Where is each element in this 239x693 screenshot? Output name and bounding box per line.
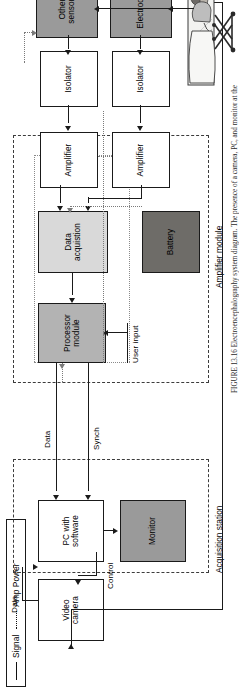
conn-iso1-amp1-arrow (65, 126, 71, 131)
conn-control-h (96, 552, 97, 576)
label-data-camera-pc: Data (10, 596, 19, 613)
conn-patient-electrodes-v (172, 8, 194, 9)
block-other-sensors[interactable]: Other sensors (36, 0, 98, 38)
block-pc-with-software[interactable]: PC with software (38, 500, 104, 562)
conn-sensors-iso1-line (68, 35, 69, 49)
block-amplifier-2[interactable]: Amplifier (112, 132, 170, 188)
system-block-diagram: Signal Amp Power Acquisition station Amp… (0, 0, 239, 693)
block-electrodes[interactable]: Electrodes (110, 0, 172, 38)
label-control-pc-camera: Control (106, 563, 115, 590)
block-data-acquisition[interactable]: Data acquistion (38, 211, 108, 273)
conn-camera-data-h (22, 567, 23, 601)
conn-amp1-daq-arrow (57, 206, 63, 211)
conn-iso1-amp1-line (68, 105, 69, 123)
label-data-processor-pc: Data (43, 431, 52, 448)
legend-label-signal: Signal (11, 635, 21, 658)
conn-iso2-amp2-arrow (137, 126, 143, 131)
conn-data-proc-pc-arrow (53, 495, 59, 500)
conn-sensors-iso1-arrow (65, 50, 71, 55)
conn-pc-monitor-arrow (113, 528, 118, 534)
power-rail-proc-drop (103, 334, 107, 335)
conn-loop-left-v (71, 609, 223, 610)
conn-electrodes-iso2-line (140, 35, 141, 49)
label-synch-processor-pc: Synch (92, 427, 101, 450)
conn-daq-proc-arrow (69, 298, 75, 303)
solid-line-icon (16, 662, 17, 680)
conn-iso2-amp2-line (140, 105, 141, 123)
conn-synch-proc-pc-arrow (85, 495, 91, 500)
conn-user-input-line (127, 323, 128, 363)
conn-control-v (78, 575, 97, 576)
conn-patient-sensors-arrow (94, 6, 99, 12)
conn-loop-to-camera (71, 610, 72, 646)
legend-item-signal: Signal (11, 635, 21, 680)
power-battery-up (70, 206, 142, 207)
conn-patient-sensors-v (98, 8, 170, 9)
conn-data-proc-pc (56, 363, 57, 491)
conn-amp2-daq-h (141, 185, 142, 199)
power-sensors-h (24, 33, 25, 63)
power-rail-h (103, 111, 104, 363)
power-proc-arrow (59, 364, 65, 369)
conn-synch-proc-pc (88, 363, 89, 491)
figure-page: Signal Amp Power Acquisition station Amp… (0, 0, 239, 693)
block-processor-module[interactable]: Processor module (38, 303, 106, 363)
block-monitor[interactable]: Monitor (120, 500, 186, 562)
conn-electrodes-iso2-arrow (137, 50, 143, 55)
conn-daq-proc-line (72, 273, 73, 295)
power-battery-arrow (67, 208, 73, 213)
power-sensors-arrow (32, 30, 37, 36)
conn-amp1-daq-line (60, 185, 61, 203)
conn-user-input-v (108, 332, 128, 333)
patient-in-bed-illustration (170, 0, 238, 95)
conn-amp2-daq-h2 (88, 197, 89, 203)
power-rail-amp2-drop (103, 156, 112, 157)
conn-camera-data-arrow (33, 564, 38, 570)
label-user-input: User input (131, 326, 140, 363)
rotated-figure-canvas: Signal Amp Power Acquisition station Amp… (0, 0, 239, 693)
block-isolator-2[interactable]: Isolator (112, 51, 170, 107)
conn-amp2-daq-v (88, 198, 142, 199)
conn-control-arrow (75, 580, 81, 585)
figure-caption: FIGURE 13.16 Electroencephalography syst… (231, 85, 239, 393)
block-amplifier-1[interactable]: Amplifier (40, 132, 98, 188)
block-isolator-1[interactable]: Isolator (40, 51, 98, 107)
conn-patient-electrodes-arrow (168, 6, 173, 12)
conn-camera-data-v (22, 600, 39, 601)
block-battery[interactable]: Battery (142, 211, 200, 273)
dotted-line-icon (16, 611, 17, 629)
